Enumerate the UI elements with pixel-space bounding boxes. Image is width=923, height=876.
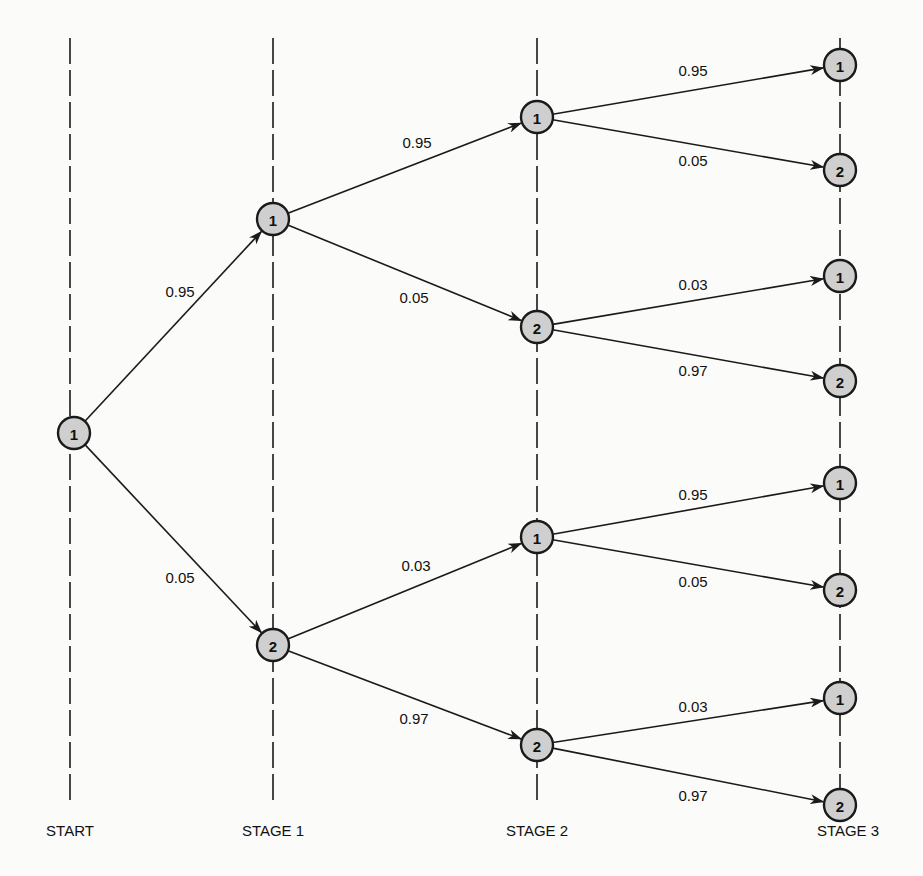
state-node-n3f: 2	[824, 574, 856, 606]
edge-probability-label: 0.05	[678, 573, 707, 590]
state-node-n2a: 1	[521, 101, 553, 133]
node-state-label: 1	[533, 530, 541, 547]
node-state-label: 2	[269, 638, 277, 655]
edge-probability-label: 0.97	[678, 362, 707, 379]
state-node-n3b: 2	[824, 154, 856, 186]
state-node-n3e: 1	[824, 467, 856, 499]
probability-labels: 0.950.050.950.050.030.970.950.050.030.97…	[165, 62, 707, 804]
state-node-n3d: 2	[824, 365, 856, 397]
state-node-n1b: 2	[257, 629, 289, 661]
edge-probability-label: 0.95	[678, 486, 707, 503]
edge-probability-label: 0.95	[402, 134, 431, 151]
edge-probability-label: 0.05	[399, 289, 428, 306]
state-node-n2c: 1	[521, 521, 553, 553]
edge-probability-label: 0.05	[678, 152, 707, 169]
node-state-label: 1	[269, 212, 277, 229]
node-state-label: 2	[836, 583, 844, 600]
edge-probability-label: 0.03	[678, 698, 707, 715]
state-node-n3g: 1	[824, 682, 856, 714]
stage-label-start: START	[46, 822, 94, 839]
tree-edges	[85, 68, 823, 802]
edge-probability-label: 0.05	[165, 569, 194, 586]
edge-probability-label: 0.03	[401, 557, 430, 574]
stage-labels: STARTSTAGE 1STAGE 2STAGE 3	[46, 822, 879, 839]
state-node-n2b: 2	[521, 311, 553, 343]
edge-arrow	[85, 231, 262, 421]
stage-divider-lines	[70, 38, 840, 806]
node-state-label: 1	[836, 691, 844, 708]
edge-probability-label: 0.97	[678, 787, 707, 804]
node-state-label: 2	[836, 374, 844, 391]
node-state-label: 1	[836, 58, 844, 75]
edge-probability-label: 0.97	[399, 710, 428, 727]
stage-label-stage3: STAGE 3	[817, 822, 879, 839]
edge-arrow	[288, 225, 521, 321]
state-node-n2d: 2	[521, 729, 553, 761]
node-state-label: 2	[533, 320, 541, 337]
stage-label-stage2: STAGE 2	[506, 822, 568, 839]
state-node-n0: 1	[58, 417, 90, 449]
node-state-label: 2	[836, 163, 844, 180]
edge-probability-label: 0.95	[165, 283, 194, 300]
state-node-n3a: 1	[824, 49, 856, 81]
probability-tree-diagram: 0.950.050.950.050.030.970.950.050.030.97…	[0, 0, 923, 876]
edge-probability-label: 0.03	[678, 276, 707, 293]
edge-probability-label: 0.95	[678, 62, 707, 79]
edge-arrow	[85, 445, 261, 633]
node-state-label: 2	[533, 738, 541, 755]
node-state-label: 1	[533, 110, 541, 127]
state-node-n1a: 1	[257, 203, 289, 235]
node-state-label: 2	[836, 798, 844, 815]
stage-label-stage1: STAGE 1	[242, 822, 304, 839]
tree-nodes: 112121212121212	[58, 49, 856, 821]
state-node-n3c: 1	[824, 260, 856, 292]
node-state-label: 1	[836, 476, 844, 493]
state-node-n3h: 2	[824, 789, 856, 821]
node-state-label: 1	[836, 269, 844, 286]
node-state-label: 1	[70, 426, 78, 443]
